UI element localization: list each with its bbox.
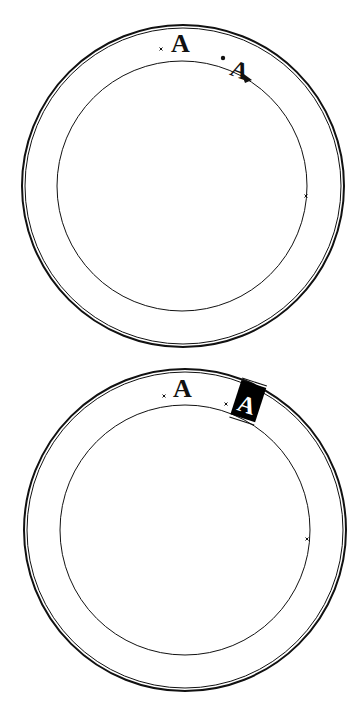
outer-ring-inner: [27, 372, 343, 688]
outer-ring-outer: [24, 369, 346, 691]
path-text-diagram-bottom: A A: [0, 354, 362, 708]
handle-dot-icon[interactable]: [221, 56, 225, 60]
path-text-diagram-top: A A: [0, 0, 362, 354]
x-marker-icon: [306, 538, 309, 541]
text-path-circle[interactable]: [57, 61, 307, 311]
x-marker-icon: [163, 395, 166, 398]
selected-glyph-group[interactable]: A: [229, 378, 266, 425]
diagram-panel-bottom: A A: [0, 354, 362, 708]
outer-ring-outer: [22, 25, 344, 347]
text-path-circle[interactable]: [60, 405, 310, 655]
x-marker-icon: [160, 48, 163, 51]
glyph-upright[interactable]: A: [173, 374, 192, 403]
diagram-panel-top: A A: [0, 0, 362, 354]
glyph-upright[interactable]: A: [171, 29, 190, 58]
x-marker-icon: [225, 403, 228, 406]
outer-ring-inner: [25, 28, 341, 344]
